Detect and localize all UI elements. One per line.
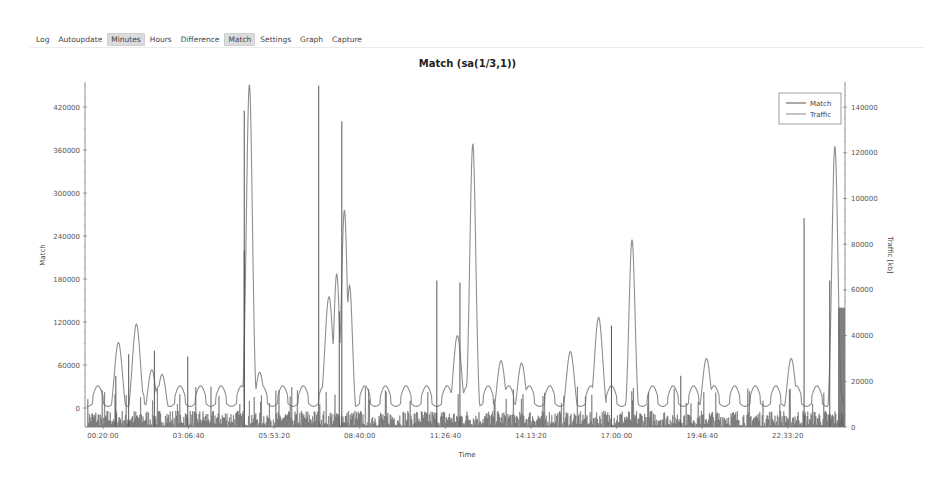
y-tick-label: 120000 bbox=[53, 319, 80, 327]
y2-axis-title: Traffic [kb] bbox=[886, 235, 894, 273]
x-tick-label: 17:00:00 bbox=[601, 432, 632, 440]
y-tick-label: 180000 bbox=[53, 276, 80, 284]
y2-tick-label: 80000 bbox=[851, 241, 873, 249]
y2-tick-label: 60000 bbox=[851, 286, 873, 294]
x-tick-label: 11:26:40 bbox=[430, 432, 461, 440]
y-tick-label: 60000 bbox=[58, 362, 80, 370]
y-tick-label: 300000 bbox=[53, 190, 80, 198]
y2-tick-label: 100000 bbox=[851, 195, 878, 203]
y-tick-label: 420000 bbox=[53, 104, 80, 112]
y2-tick-label: 40000 bbox=[851, 332, 873, 340]
match-dense-region bbox=[838, 308, 845, 427]
y2-tick-label: 140000 bbox=[851, 104, 878, 112]
x-tick-label: 22:33:20 bbox=[772, 432, 803, 440]
traffic-line bbox=[87, 85, 844, 407]
plot-series bbox=[87, 85, 845, 427]
x-tick-label: 08:40:00 bbox=[344, 432, 375, 440]
y2-tick-label: 0 bbox=[851, 424, 855, 432]
legend-box bbox=[779, 93, 841, 124]
legend-label-match: Match bbox=[810, 100, 831, 108]
chart-legend: MatchTraffic bbox=[779, 93, 841, 124]
y-axis-title: Match bbox=[39, 244, 47, 265]
x-tick-label: 14:13:20 bbox=[515, 432, 546, 440]
x-tick-label: 00:20:00 bbox=[87, 432, 118, 440]
x-tick-label: 03:06:40 bbox=[173, 432, 204, 440]
y-tick-label: 0 bbox=[76, 405, 80, 413]
x-axis-title: Time bbox=[457, 451, 475, 459]
x-tick-label: 05:53:20 bbox=[258, 432, 289, 440]
y2-tick-label: 120000 bbox=[851, 149, 878, 157]
y2-tick-label: 20000 bbox=[851, 378, 873, 386]
y-tick-label: 240000 bbox=[53, 233, 80, 241]
legend-label-traffic: Traffic bbox=[809, 111, 831, 119]
chart-canvas: 0600001200001800002400003000003600004200… bbox=[0, 0, 935, 485]
x-tick-label: 19:46:40 bbox=[686, 432, 717, 440]
y-tick-label: 360000 bbox=[53, 147, 80, 155]
